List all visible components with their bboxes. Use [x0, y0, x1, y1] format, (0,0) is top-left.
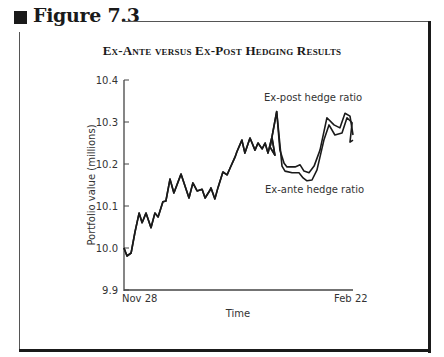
- y-tick-label: 9.9: [102, 285, 118, 296]
- line-chart: 9.910.010.110.210.310.4 Nov 28 Feb 22 Ti…: [0, 0, 444, 357]
- annotation-ex-ante: Ex-ante hedge ratio: [265, 184, 364, 195]
- y-axis: 9.910.010.110.210.310.4: [96, 75, 129, 296]
- x-tick-label-end: Feb 22: [334, 293, 368, 304]
- x-tick-label-start: Nov 28: [122, 293, 157, 304]
- y-tick-label: 10.4: [96, 75, 118, 86]
- y-tick-label: 10.0: [96, 243, 118, 254]
- x-axis-label: Time: [225, 308, 250, 319]
- y-tick-label: 10.1: [96, 201, 118, 212]
- y-tick-label: 10.3: [96, 117, 118, 128]
- x-axis: Nov 28 Feb 22 Time: [122, 290, 368, 319]
- annotation-ex-post: Ex-post hedge ratio: [264, 92, 362, 103]
- y-axis-label: Portfolio value (millions): [86, 124, 97, 245]
- y-tick-label: 10.2: [96, 159, 118, 170]
